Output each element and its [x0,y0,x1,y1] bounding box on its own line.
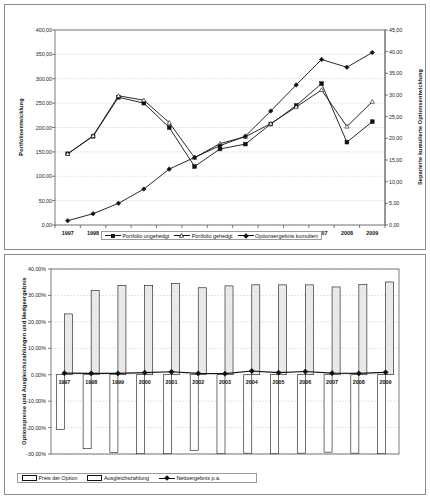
options-category-label: 2004 [243,379,261,385]
portfolio-plot-area [55,30,385,225]
options-y-tick: -20,00% [11,425,46,431]
options-category-label: 2005 [270,379,288,385]
options-y-tick: -10,00% [11,398,46,404]
legend-marker-diamond-filled-icon [159,475,175,482]
options-plot-area [51,269,399,454]
legend-marker-diamond-filled-icon [238,232,254,239]
options-y-tick: 0,00% [11,372,46,378]
options-chart-panel: Optionspreise und Ausgleichszahlungen un… [4,254,426,495]
portfolio-chart-panel: Portfolioentwicklung Separierte kumulier… [4,4,426,250]
portfolio-legend: Portfolio ungehedgtPortfolio gehedgtOpti… [101,231,322,240]
options-category-label: 2001 [162,379,180,385]
options-category-label: 1997 [55,379,73,385]
portfolio-y-tick: 150,00 [17,149,52,155]
legend-marker-triangle-open-icon [174,232,190,239]
legend-label: Preis der Option [39,475,78,481]
options-category-label: 2002 [189,379,207,385]
options-y-tick: 30,00% [11,292,46,298]
options-y-tick: 40,00% [11,266,46,272]
portfolio-y-tick: 0,00 [17,222,52,228]
legend-label: Portfolio ungehedgt [123,233,170,239]
legend-item: Ausgleichszahlung [87,475,148,481]
legend-bar-swatch-icon [22,475,37,481]
portfolio-y2-tick: 30,00 [389,92,402,98]
options-chart-inner: Optionspreise und Ausgleichszahlungen un… [7,257,423,492]
portfolio-y2-tick: 25,00 [389,114,402,120]
portfolio-y2-tick: 40,00 [389,49,402,55]
portfolio-y2-tick: 35,00 [389,70,402,76]
legend-marker-square-filled-icon [105,232,121,239]
portfolio-y-tick: 200,00 [17,125,52,131]
options-y-tick: -30,00% [11,451,46,457]
portfolio-plot-svg [55,30,385,225]
portfolio-category-label: 2008 [338,230,356,236]
portfolio-y2-tick: 20,00 [389,135,402,141]
options-category-label: 2003 [216,379,234,385]
legend-item: Optionsergebnis kumuliert [238,232,318,239]
options-category-label: 2006 [296,379,314,385]
legend-item: Preis der Option [22,475,77,481]
portfolio-y2-tick: 5,00 [389,200,399,206]
options-legend: Preis der OptionAusgleichszahlungNettoer… [17,473,257,483]
options-category-label: 1999 [109,379,127,385]
portfolio-y2-tick: 45,00 [389,27,402,33]
legend-bar-swatch-icon [87,475,102,481]
options-y-tick: 20,00% [11,319,46,325]
options-plot-svg [51,269,399,454]
options-category-label: 2008 [350,379,368,385]
portfolio-y-tick: 300,00 [17,76,52,82]
portfolio-y2-tick: 15,00 [389,157,402,163]
portfolio-chart-inner: Portfolioentwicklung Separierte kumulier… [7,7,423,247]
portfolio-category-label: 1998 [84,230,102,236]
legend-label: Nettoergebnis p.a. [176,475,220,481]
portfolio-category-label: 1997 [59,230,77,236]
portfolio-y-tick: 350,00 [17,51,52,57]
portfolio-y-tick: 100,00 [17,173,52,179]
legend-item: Portfolio ungehedgt [105,232,169,239]
options-category-label: 1998 [82,379,100,385]
legend-label: Portfolio gehedgt [192,233,233,239]
figure-page: Portfolioentwicklung Separierte kumulier… [0,0,430,499]
legend-label: Optionsergebnis kumuliert [255,233,318,239]
options-y-tick: 10,00% [11,345,46,351]
portfolio-y2-axis-title: Separierte kumulierte Optionsentwicklung [417,47,423,207]
portfolio-y-tick: 400,00 [17,27,52,33]
legend-item: Nettoergebnis p.a. [159,475,221,482]
portfolio-y2-tick: 10,00 [389,179,402,185]
portfolio-y-tick: 250,00 [17,100,52,106]
options-category-label: 2000 [136,379,154,385]
options-category-label: 2009 [377,379,395,385]
portfolio-y2-tick: 0,00 [389,222,399,228]
portfolio-y-tick: 50,00 [17,198,52,204]
legend-item: Portfolio gehedgt [174,232,232,239]
options-category-label: 2007 [323,379,341,385]
portfolio-category-label: 2009 [363,230,381,236]
legend-label: Ausgleichszahlung [104,475,149,481]
